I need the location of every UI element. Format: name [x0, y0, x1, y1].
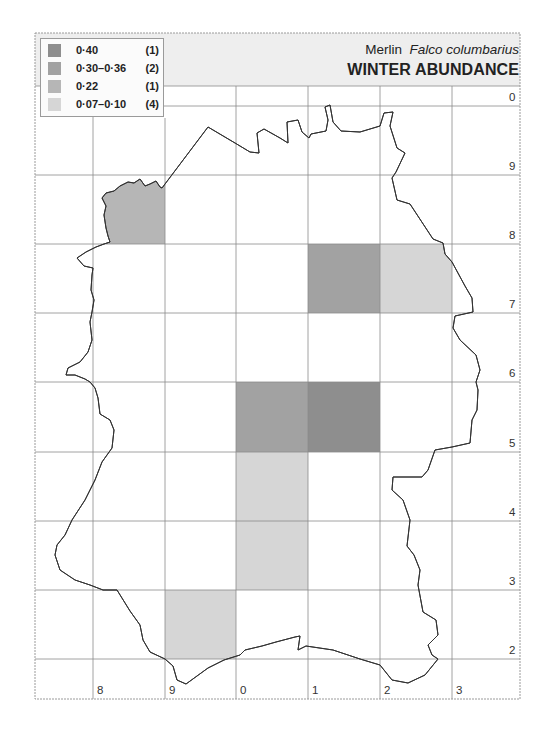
legend-count: (1)	[146, 80, 159, 92]
cell-0-3	[236, 521, 308, 590]
legend-item: 0·07–0·10 (4)	[47, 97, 159, 113]
species-title: Merlin Falco columbarius	[365, 42, 519, 57]
map-border	[35, 33, 520, 699]
legend-swatch	[48, 62, 61, 75]
scientific-name: Falco columbarius	[409, 42, 519, 57]
legend-label: 0·30–0·36	[76, 62, 126, 74]
cell-89-8	[93, 175, 165, 244]
legend-count: (1)	[146, 44, 159, 56]
legend-item: 0·40 (1)	[47, 43, 159, 59]
cell-1-7	[308, 244, 380, 313]
map-subtitle: WINTER ABUNDANCE	[347, 61, 519, 79]
x-tick: 3	[456, 684, 462, 696]
legend-item: 0·22 (1)	[47, 79, 159, 95]
y-tick: 2	[509, 644, 515, 656]
legend-swatch	[48, 98, 61, 111]
legend: 0·40 (1) 0·30–0·36 (2) 0·22 (1) 0·07–0·1…	[40, 38, 164, 117]
y-tick: 4	[509, 506, 515, 518]
x-tick: 1	[312, 684, 318, 696]
y-tick: 8	[509, 229, 515, 241]
y-tick: 6	[509, 367, 515, 379]
y-tick: 7	[509, 298, 515, 310]
common-name: Merlin	[365, 42, 402, 57]
cell-2-7	[380, 244, 452, 313]
x-tick: 0	[240, 684, 246, 696]
y-tick: 0	[509, 91, 515, 103]
legend-label: 0·07–0·10	[76, 98, 126, 110]
legend-label: 0·22	[76, 80, 98, 92]
legend-count: (2)	[146, 62, 159, 74]
y-tick: 9	[509, 160, 515, 172]
y-tick: 3	[509, 575, 515, 587]
legend-count: (4)	[146, 98, 159, 110]
x-tick: 8	[97, 684, 103, 696]
cell-0-4	[236, 452, 308, 521]
cell-0-5	[236, 382, 308, 452]
legend-swatch	[48, 80, 61, 93]
cell-9-2	[165, 590, 236, 659]
legend-item: 0·30–0·36 (2)	[47, 61, 159, 77]
y-tick: 5	[509, 437, 515, 449]
x-tick: 2	[384, 684, 390, 696]
legend-label: 0·40	[76, 44, 98, 56]
legend-swatch	[48, 44, 61, 57]
x-tick: 9	[169, 684, 175, 696]
abundance-cells	[93, 175, 452, 659]
cell-1-5	[308, 382, 380, 452]
